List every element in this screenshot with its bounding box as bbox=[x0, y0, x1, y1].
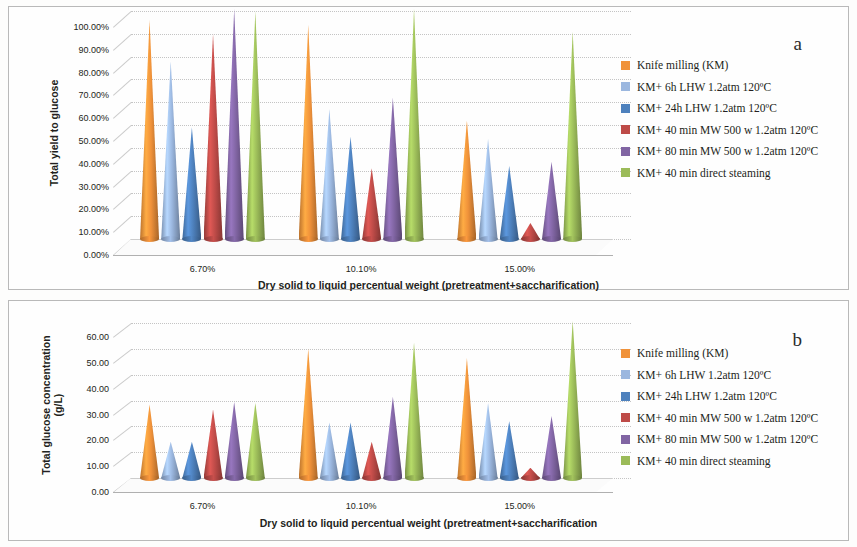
cone-bar bbox=[161, 61, 180, 239]
cone-base bbox=[500, 475, 519, 481]
x-tick-label: 6.70% bbox=[190, 501, 216, 511]
legend-item[interactable]: KM+ 6h LHW 1.2atm 120ºC bbox=[621, 81, 771, 93]
cone-body bbox=[457, 358, 476, 478]
cone-body bbox=[182, 442, 201, 478]
legend-item[interactable]: Knife milling (KM) bbox=[621, 59, 728, 71]
legend-item[interactable]: Knife milling (KM) bbox=[621, 347, 728, 359]
legend-label: KM+ 24h LHW 1.2atm 120ºC bbox=[637, 390, 777, 402]
gridline bbox=[131, 401, 631, 402]
cone-bar bbox=[457, 358, 476, 478]
legend-swatch bbox=[621, 370, 630, 379]
legend-item[interactable]: KM+ 40 min direct steaming bbox=[621, 167, 771, 179]
legend-label: KM+ 24h LHW 1.2atm 120ºC bbox=[637, 102, 777, 114]
y-tick-label: 10.00 bbox=[86, 461, 109, 471]
cone-body bbox=[563, 320, 582, 478]
axis-depth-line bbox=[113, 57, 132, 74]
axis-depth-line bbox=[113, 193, 132, 210]
cone-body bbox=[383, 98, 402, 239]
legend-label: KM+ 6h LHW 1.2atm 120ºC bbox=[637, 369, 771, 381]
legend-item[interactable]: KM+ 24h LHW 1.2atm 120ºC bbox=[621, 102, 777, 114]
cone-bar bbox=[204, 34, 223, 239]
cone-base bbox=[320, 236, 339, 242]
cone-base bbox=[246, 236, 265, 242]
y-tick-label: 20.00 bbox=[86, 435, 109, 445]
y-tick-label: 20.00% bbox=[78, 204, 109, 214]
cone-base bbox=[500, 236, 519, 242]
gridline bbox=[131, 11, 631, 12]
cone-base bbox=[320, 475, 339, 481]
axis-depth-line bbox=[113, 426, 132, 441]
cone-bar bbox=[299, 349, 318, 478]
y-tick-label: 0.00 bbox=[91, 487, 109, 497]
cone-body bbox=[457, 120, 476, 239]
cone-base bbox=[362, 475, 381, 481]
legend-item[interactable]: KM+ 40 min MW 500 w 1.2atm 120ºC bbox=[621, 124, 818, 136]
cone-bar bbox=[500, 166, 519, 239]
cone-base bbox=[341, 236, 360, 242]
gridline bbox=[131, 323, 631, 324]
axis-depth-line bbox=[113, 79, 132, 96]
legend-swatch bbox=[621, 61, 630, 70]
legend-swatch bbox=[621, 125, 630, 134]
legend-item[interactable]: KM+ 80 min MW 500 w 1.2atm 120ºC bbox=[621, 145, 818, 157]
cone-body bbox=[182, 127, 201, 239]
cone-body bbox=[204, 410, 223, 478]
legend-item[interactable]: KM+ 6h LHW 1.2atm 120ºC bbox=[621, 369, 771, 381]
legend-label: KM+ 40 min direct steaming bbox=[637, 167, 771, 179]
cone-body bbox=[140, 404, 159, 478]
cone-bar bbox=[341, 422, 360, 478]
cone-bar bbox=[182, 127, 201, 239]
cone-base bbox=[299, 236, 318, 242]
cone-base bbox=[521, 475, 540, 481]
legend-label: KM+ 40 min direct steaming bbox=[637, 455, 771, 467]
cone-base bbox=[204, 475, 223, 481]
cone-base bbox=[140, 475, 159, 481]
legend-swatch bbox=[621, 392, 630, 401]
legend-item[interactable]: KM+ 40 min direct steaming bbox=[621, 455, 771, 467]
cone-bar bbox=[161, 442, 180, 478]
cone-base bbox=[563, 236, 582, 242]
x-axis-title-b: Dry solid to liquid percentual weight (p… bbox=[9, 517, 848, 529]
axis-depth-line bbox=[113, 401, 132, 416]
legend-item[interactable]: KM+ 80 min MW 500 w 1.2atm 120ºC bbox=[621, 433, 818, 445]
cone-bar bbox=[225, 9, 244, 239]
legend-swatch bbox=[621, 349, 630, 358]
cone-base bbox=[362, 236, 381, 242]
cone-base bbox=[225, 475, 244, 481]
y-tick-label: 30.00% bbox=[78, 182, 109, 192]
x-tick-label: 15.00% bbox=[505, 501, 536, 511]
legend-label: KM+ 80 min MW 500 w 1.2atm 120ºC bbox=[637, 433, 818, 445]
cone-bar bbox=[542, 416, 561, 478]
legend-item[interactable]: KM+ 24h LHW 1.2atm 120ºC bbox=[621, 390, 777, 402]
legend-label: Knife milling (KM) bbox=[637, 347, 728, 359]
x-tick-label: 10.10% bbox=[346, 501, 377, 511]
axis-depth-line bbox=[113, 452, 132, 467]
axis-depth-line bbox=[113, 34, 132, 51]
cone-body bbox=[204, 34, 223, 239]
cone-bar bbox=[563, 32, 582, 239]
cone-body bbox=[161, 61, 180, 239]
y-tick-label: 60.00 bbox=[86, 332, 109, 342]
cone-bar bbox=[140, 404, 159, 478]
cone-body bbox=[161, 442, 180, 478]
legend-swatch bbox=[621, 82, 630, 91]
cone-bar bbox=[457, 120, 476, 239]
cone-bar bbox=[405, 342, 424, 478]
x-tick-label: 15.00% bbox=[505, 264, 536, 274]
y-tick-label: 50.00% bbox=[78, 136, 109, 146]
cone-body bbox=[563, 32, 582, 239]
cone-body bbox=[383, 397, 402, 478]
cone-body bbox=[362, 442, 381, 478]
cone-body bbox=[246, 403, 265, 478]
y-tick-label: 60.00% bbox=[78, 113, 109, 123]
legend-item[interactable]: KM+ 40 min MW 500 w 1.2atm 120ºC bbox=[621, 412, 818, 424]
cone-bar bbox=[320, 422, 339, 478]
cone-body bbox=[405, 9, 424, 239]
axis-depth-line bbox=[113, 102, 132, 119]
y-tick-label: 90.00% bbox=[78, 45, 109, 55]
cone-base bbox=[563, 475, 582, 481]
axis-baseline bbox=[113, 255, 613, 256]
gridline bbox=[131, 375, 631, 376]
y-tick-label: 100.00% bbox=[73, 22, 109, 32]
cone-bar bbox=[204, 410, 223, 478]
